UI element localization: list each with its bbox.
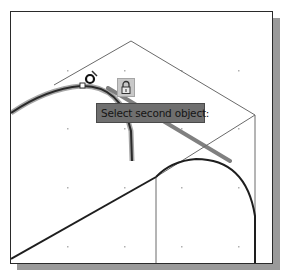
cad-drawing[interactable] xyxy=(11,12,272,263)
lock-icon xyxy=(118,79,134,96)
right-arc[interactable] xyxy=(156,159,255,263)
command-prompt-tooltip: Select second object: xyxy=(96,103,205,123)
pickbox-cursor-icon xyxy=(86,71,97,83)
construction-lines xyxy=(54,41,255,263)
highlighted-line[interactable] xyxy=(108,88,230,161)
diagonal-line[interactable] xyxy=(11,177,156,259)
lock-button[interactable] xyxy=(117,78,135,97)
grid-dots xyxy=(67,70,240,248)
drawing-viewport[interactable]: Select second object: xyxy=(10,11,273,264)
selected-arc[interactable] xyxy=(11,86,132,161)
grip-square[interactable] xyxy=(80,83,85,88)
